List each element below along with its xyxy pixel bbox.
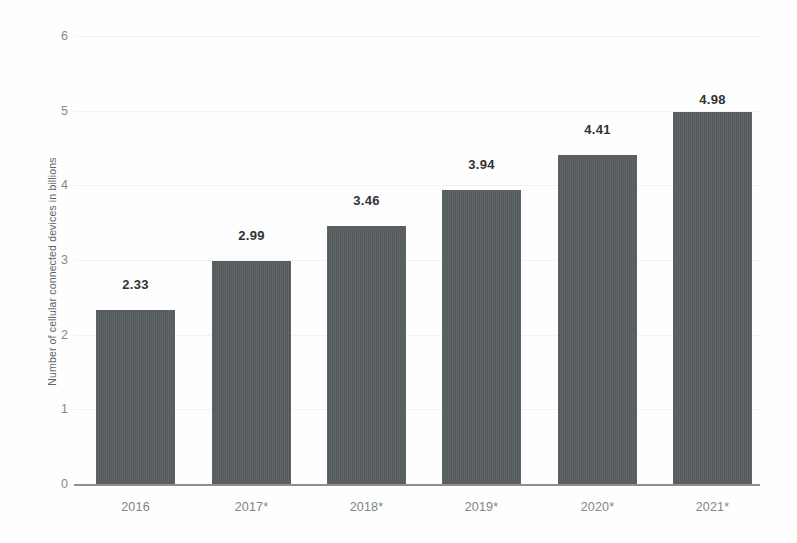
y-tick-label: 5	[42, 104, 68, 118]
bar-texture	[327, 226, 406, 484]
gridline	[74, 185, 760, 186]
x-tick-label: 2016	[96, 500, 175, 514]
bar-texture	[212, 261, 291, 484]
y-tick-label: 4	[42, 178, 68, 192]
bar	[327, 226, 406, 484]
bar	[558, 155, 637, 484]
bar-value-label: 2.99	[212, 228, 291, 243]
x-tick-label: 2021*	[673, 500, 752, 514]
gridline	[74, 36, 760, 37]
bar-texture	[442, 190, 521, 484]
y-axis-tick-labels: 6 5 4 3 2 1 0	[32, 0, 68, 543]
bar-texture	[558, 155, 637, 484]
y-tick-label: 2	[42, 328, 68, 342]
x-tick-label: 2020*	[558, 500, 637, 514]
bar	[212, 261, 291, 484]
y-tick-label: 0	[42, 477, 68, 491]
bar-texture	[673, 112, 752, 484]
gridline	[74, 111, 760, 112]
bar-value-label: 3.94	[442, 157, 521, 172]
bar	[442, 190, 521, 484]
x-tick-label: 2017*	[212, 500, 291, 514]
chart-screenshot: Number of cellular connected devices in …	[0, 0, 797, 543]
bar-value-label: 3.46	[327, 193, 406, 208]
gridline	[74, 409, 760, 410]
y-tick-label: 3	[42, 253, 68, 267]
bar-texture	[96, 310, 175, 484]
gridline	[74, 260, 760, 261]
bar-value-label: 4.41	[558, 122, 637, 137]
x-axis-line	[74, 484, 760, 486]
y-tick-label: 6	[42, 29, 68, 43]
gridline	[74, 335, 760, 336]
y-tick-label: 1	[42, 402, 68, 416]
bar	[673, 112, 752, 484]
x-tick-label: 2018*	[327, 500, 406, 514]
bar-value-label: 4.98	[673, 92, 752, 107]
plot-area	[74, 36, 760, 484]
x-tick-label: 2019*	[442, 500, 521, 514]
bar	[96, 310, 175, 484]
bar-value-label: 2.33	[96, 277, 175, 292]
